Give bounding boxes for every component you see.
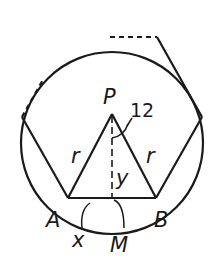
label-p: P <box>103 85 116 109</box>
label-angle: 12 <box>130 99 154 121</box>
side-b-right <box>156 117 202 198</box>
label-b: B <box>154 208 168 232</box>
label-y: y <box>115 166 129 190</box>
label-a: A <box>44 208 60 232</box>
label-r-right: r <box>146 144 156 168</box>
side-right-top <box>157 37 202 117</box>
m-leader <box>114 200 124 228</box>
label-r-left: r <box>71 144 81 168</box>
dashed-left <box>22 78 44 117</box>
side-a-left <box>22 117 68 198</box>
x-leader <box>82 203 90 228</box>
label-x: x <box>71 228 85 252</box>
geometry-diagram: P 12 r r y A B x M <box>0 0 220 261</box>
label-m: M <box>110 233 128 257</box>
